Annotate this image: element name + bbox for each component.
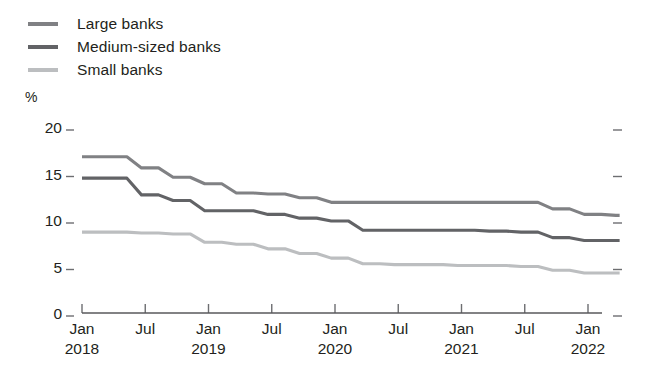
x-tick-label-year-4: 2020 [318,340,353,357]
x-tick-label-month-1: Jul [135,320,155,337]
series-line-medium-sized-banks [82,178,620,240]
data-series-group [82,157,620,273]
x-tick-label-year-2: 2019 [191,340,225,357]
series-line-small-banks [82,232,620,273]
series-line-large-banks [82,157,620,216]
x-tick-label-year-6: 2021 [444,340,478,357]
x-tick-label-year-0: 2018 [65,340,99,357]
x-axis-tick-marks [82,304,588,313]
x-tick-label-month-7: Jul [515,320,535,337]
y-axis-tick-labels: 20151050 [45,119,63,322]
y-tick-label-20: 20 [45,119,63,136]
x-tick-label-month-5: Jul [388,320,408,337]
x-tick-label-month-2: Jan [196,320,221,337]
y-axis-tick-marks [66,130,74,316]
y-tick-label-15: 15 [45,166,62,183]
y-tick-label-0: 0 [53,305,62,322]
y-tick-label-5: 5 [53,259,62,276]
x-tick-label-year-8: 2022 [571,340,605,357]
plot-area: 20151050 Jan2018JulJan2019JulJan2020JulJ… [0,0,652,385]
x-tick-label-month-0: Jan [70,320,95,337]
x-axis-tick-labels: Jan2018JulJan2019JulJan2020JulJan2021Jul… [65,320,605,357]
bank-capital-ratio-chart: Large banks Medium-sized banks Small ban… [0,0,652,385]
x-tick-label-month-3: Jul [262,320,282,337]
y-axis-tick-marks-right [613,130,622,316]
y-tick-label-10: 10 [45,212,63,229]
x-tick-label-month-4: Jan [323,320,348,337]
x-tick-label-month-8: Jan [576,320,601,337]
x-tick-label-month-6: Jan [449,320,474,337]
